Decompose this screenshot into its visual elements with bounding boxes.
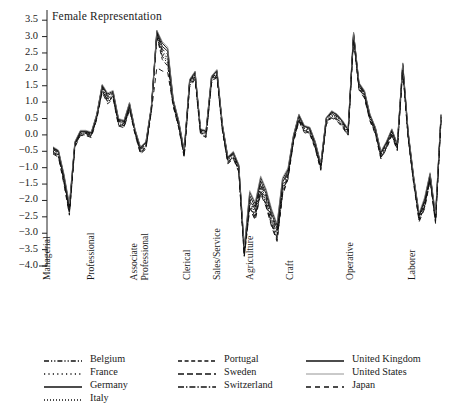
- legend-column: United KingdomUnited StatesJapan: [306, 352, 421, 391]
- legend-column: PortugalSwedenSwitzerland: [178, 352, 273, 391]
- legend-column: BelgiumFranceGermanyItaly: [44, 352, 128, 404]
- legend-line-sample: [44, 353, 82, 365]
- legend-label: Germany: [90, 379, 128, 391]
- legend-label: Italy: [90, 392, 109, 404]
- x-tick-label: Professional: [140, 233, 151, 280]
- legend-item[interactable]: Germany: [44, 378, 128, 391]
- plot-area: [0, 0, 452, 408]
- legend-label: United Kingdom: [352, 353, 421, 365]
- legend-item[interactable]: Switzerland: [178, 378, 273, 391]
- legend-item[interactable]: Belgium: [44, 352, 128, 365]
- x-tick-label: Sales/Service: [212, 228, 222, 280]
- legend-label: Belgium: [90, 353, 125, 365]
- legend-line-sample: [306, 379, 344, 391]
- x-tick-label: Associate: [129, 243, 140, 280]
- x-tick-label: Laborer: [407, 250, 417, 280]
- legend-label: Portugal: [224, 353, 259, 365]
- legend-item[interactable]: Japan: [306, 378, 421, 391]
- x-tick-label: Agriculture: [245, 236, 255, 280]
- legend-line-sample: [44, 366, 82, 378]
- legend-line-sample: [44, 392, 82, 404]
- legend-item[interactable]: Sweden: [178, 365, 273, 378]
- legend-item[interactable]: United Kingdom: [306, 352, 421, 365]
- legend-line-sample: [178, 353, 216, 365]
- legend-label: Sweden: [224, 366, 256, 378]
- legend-label: Japan: [352, 379, 375, 391]
- x-tick-label: Managerial: [42, 236, 52, 280]
- x-tick-label: Clerical: [182, 250, 192, 280]
- legend-line-sample: [306, 353, 344, 365]
- x-tick-label: Craft: [285, 260, 295, 280]
- series-line-united-states: [53, 30, 441, 246]
- legend-line-sample: [306, 366, 344, 378]
- legend-line-sample: [178, 379, 216, 391]
- chart-figure: Female Representation 3.53.02.52.01.51.0…: [0, 0, 452, 408]
- legend-line-sample: [178, 366, 216, 378]
- legend-label: France: [90, 366, 118, 378]
- legend-item[interactable]: France: [44, 365, 128, 378]
- legend-line-sample: [44, 379, 82, 391]
- x-tick-label: Operative: [345, 242, 355, 280]
- legend-label: Switzerland: [224, 379, 273, 391]
- chart-legend: BelgiumFranceGermanyItalyPortugalSwedenS…: [44, 352, 444, 406]
- legend-item[interactable]: Italy: [44, 391, 128, 404]
- legend-item[interactable]: Portugal: [178, 352, 273, 365]
- legend-label: United States: [352, 366, 407, 378]
- x-tick-label: Professional: [86, 233, 96, 280]
- legend-item[interactable]: United States: [306, 365, 421, 378]
